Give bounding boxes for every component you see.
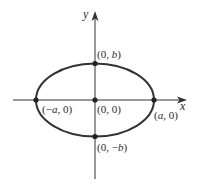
point-origin [92,97,97,102]
x-axis-label: x [179,99,186,113]
ellipse-diagram: x y (0, b) (0, 0) (−a, 0) (a, 0) (0, −b) [0,0,199,187]
point-right [151,97,156,102]
y-axis-label: y [82,7,89,21]
point-left [33,97,38,102]
label-right: (a, 0) [154,109,178,122]
label-bottom: (0, −b) [97,141,127,154]
point-bottom [92,134,97,139]
point-top [92,61,97,66]
label-left: (−a, 0) [42,103,72,116]
label-top: (0, b) [97,48,121,61]
label-origin: (0, 0) [97,103,121,116]
